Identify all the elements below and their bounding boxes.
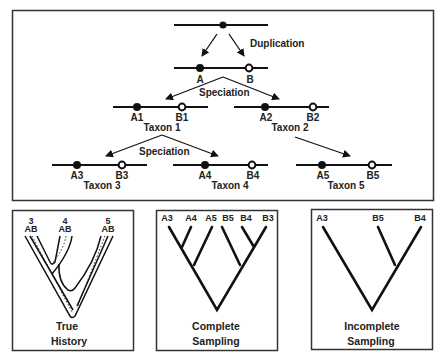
- leaf-B5: B5: [222, 213, 234, 223]
- gene-B3-marker: [119, 162, 126, 169]
- taxon1-chromosome: A1 B1 Taxon 1: [113, 103, 208, 133]
- gene-B1-marker: [179, 104, 186, 111]
- taxon3-label: Taxon 3: [83, 180, 120, 191]
- species-tree-tube: [25, 236, 113, 318]
- taxon5-genes: AB: [102, 224, 115, 234]
- gene-B4-label: B4: [247, 170, 260, 181]
- speciation-label-1: Speciation: [199, 87, 250, 98]
- incomplete-sampling-panel: A3 B5 B4 Incomplete Sampling: [312, 210, 433, 350]
- gene-duplication-figure: Duplication A B Speciation A1 B1 Taxon 1: [0, 0, 443, 358]
- gene-A5-marker: [318, 161, 326, 169]
- gene-B5-label: B5: [367, 170, 380, 181]
- leaf-A5: A5: [205, 213, 217, 223]
- ancestral-gene-marker: [219, 21, 226, 28]
- leaf-B4: B4: [240, 213, 252, 223]
- taxon3-chromosome: A3 B3 Taxon 3: [52, 161, 147, 191]
- true-history-title-line2: History: [51, 335, 87, 347]
- gene-A1-label: A1: [131, 112, 144, 123]
- taxon2-label: Taxon 2: [271, 122, 308, 133]
- gene-A4-label: A4: [199, 170, 212, 181]
- leaf-B5: B5: [372, 213, 384, 223]
- leaf-A3: A3: [316, 213, 328, 223]
- gene-A3-label: A3: [71, 170, 84, 181]
- complete-sampling-title-line2: Sampling: [192, 335, 239, 347]
- taxon3-genes: AB: [25, 224, 38, 234]
- lineage-arrow-taxon5: [295, 137, 350, 156]
- complete-gene-tree: [169, 227, 266, 310]
- speciation-label-2: Speciation: [139, 146, 190, 157]
- gene-A2-marker: [261, 103, 269, 111]
- gene-B2-marker: [310, 104, 317, 111]
- gene-B-marker: [246, 65, 253, 72]
- gene-A4-marker: [201, 161, 209, 169]
- gene-A1-marker: [133, 103, 141, 111]
- taxon4-label: Taxon 4: [211, 180, 248, 191]
- incomplete-sampling-title-line2: Sampling: [347, 335, 394, 347]
- duplicated-chromosome: A B: [174, 64, 268, 85]
- taxon4-genes: AB: [59, 224, 72, 234]
- taxon4-chromosome: A4 B4 Taxon 4: [173, 161, 268, 191]
- gene-B2-label: B2: [307, 112, 320, 123]
- taxon2-chromosome: A2 B2 Taxon 2: [234, 103, 329, 133]
- gene-A-marker: [196, 64, 204, 72]
- duplication-label: Duplication: [250, 38, 304, 49]
- complete-sampling-panel: A3 A4 A5 B5 B4 B3 Complete Sampling: [157, 211, 278, 351]
- incomplete-gene-tree: [323, 227, 421, 310]
- leaf-B4: B4: [414, 213, 426, 223]
- ancestral-chromosome: [174, 21, 268, 28]
- incomplete-sampling-title-line1: Incomplete: [344, 320, 400, 332]
- true-history-title-line1: True: [56, 320, 78, 332]
- leaf-B3: B3: [262, 213, 274, 223]
- leaf-A4: A4: [185, 213, 197, 223]
- complete-sampling-title-line1: Complete: [192, 320, 240, 332]
- duplication-arrow-left: [202, 34, 217, 56]
- gene-B5-marker: [369, 162, 376, 169]
- taxon5-label: Taxon 5: [327, 180, 364, 191]
- leaf-A3: A3: [161, 213, 173, 223]
- gene-B4-marker: [249, 162, 256, 169]
- duplication-arrow-right: [229, 34, 244, 56]
- top-panel: Duplication A B Speciation A1 B1 Taxon 1: [13, 11, 434, 201]
- gene-B-label: B: [246, 74, 253, 85]
- true-history-panel: 3 AB 4 AB 5 AB True History: [13, 211, 134, 351]
- gene-A3-marker: [73, 161, 81, 169]
- taxon5-chromosome: A5 B5 Taxon 5: [296, 161, 392, 191]
- gene-A-label: A: [196, 74, 203, 85]
- taxon1-label: Taxon 1: [143, 122, 180, 133]
